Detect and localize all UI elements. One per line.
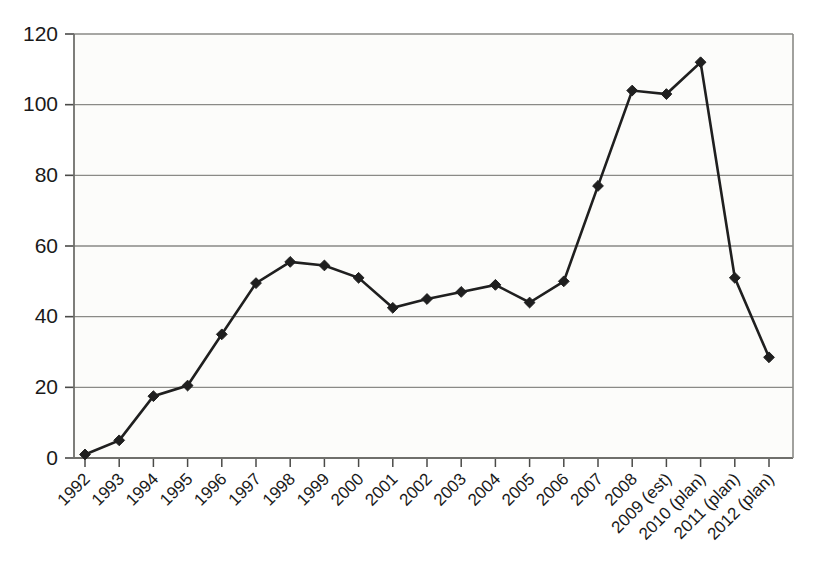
y-tick-label-20: 20 — [35, 375, 58, 398]
y-tick-label-60: 60 — [35, 234, 58, 257]
y-tick-label-40: 40 — [35, 304, 58, 327]
y-tick-label-120: 120 — [23, 22, 58, 45]
x-axis-tick-marks — [85, 458, 769, 467]
y-tick-label-0: 0 — [46, 446, 58, 469]
chart-container: 020406080100120 199219931994199519961997… — [0, 0, 823, 584]
y-tick-label-100: 100 — [23, 92, 58, 115]
y-tick-label-80: 80 — [35, 163, 58, 186]
line-chart: 020406080100120 199219931994199519961997… — [0, 0, 823, 584]
